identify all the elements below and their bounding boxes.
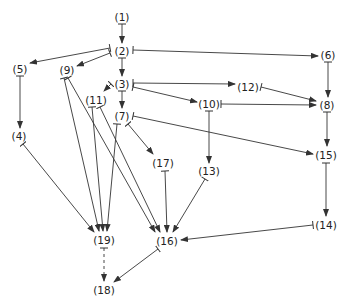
node-12: (12) <box>237 81 259 93</box>
edge-3-to-12 <box>133 83 235 84</box>
node-14: (14) <box>315 219 337 231</box>
edge-7-to-19 <box>107 124 117 231</box>
node-17: (17) <box>152 157 174 169</box>
edge-2-to-5 <box>30 48 110 63</box>
edge-2-to-9 <box>77 53 110 66</box>
node-4: (4) <box>12 130 27 142</box>
edge-2-to-6 <box>133 50 318 56</box>
edge-3-to-11 <box>104 84 111 91</box>
edge-7-to-17 <box>128 124 153 154</box>
node-13: (13) <box>198 165 220 177</box>
edge-16-to-18 <box>114 249 158 282</box>
node-15: (15) <box>315 149 337 161</box>
node-2: (2) <box>115 45 130 57</box>
node-6: (6) <box>321 49 336 61</box>
edge-4-to-19 <box>23 144 94 232</box>
edge-10-to-8 <box>221 104 316 105</box>
node-16: (16) <box>156 235 178 247</box>
node-7: (7) <box>115 110 130 122</box>
node-8: (8) <box>320 99 335 111</box>
edge-3-to-10 <box>133 87 197 102</box>
edge-11-to-19 <box>92 107 103 231</box>
edge-9-to-16 <box>68 78 155 232</box>
node-1: (1) <box>115 11 130 23</box>
edge-12-to-8 <box>261 87 316 101</box>
edge-17-to-16 <box>165 171 167 232</box>
node-10: (10) <box>198 98 220 110</box>
node-11: (11) <box>85 94 107 106</box>
edge-13-to-16 <box>173 179 205 232</box>
edge-7-to-15 <box>133 116 313 154</box>
node-18: (18) <box>93 284 115 296</box>
nodes-layer: (1)(2)(3)(5)(9)(11)(7)(6)(12)(10)(8)(15)… <box>12 11 337 296</box>
node-5: (5) <box>13 63 28 75</box>
node-3: (3) <box>115 78 130 90</box>
node-19: (19) <box>93 234 115 246</box>
node-9: (9) <box>60 64 75 76</box>
dependency-graph: (1)(2)(3)(5)(9)(11)(7)(6)(12)(10)(8)(15)… <box>0 0 347 303</box>
edge-14-to-16 <box>181 225 313 240</box>
